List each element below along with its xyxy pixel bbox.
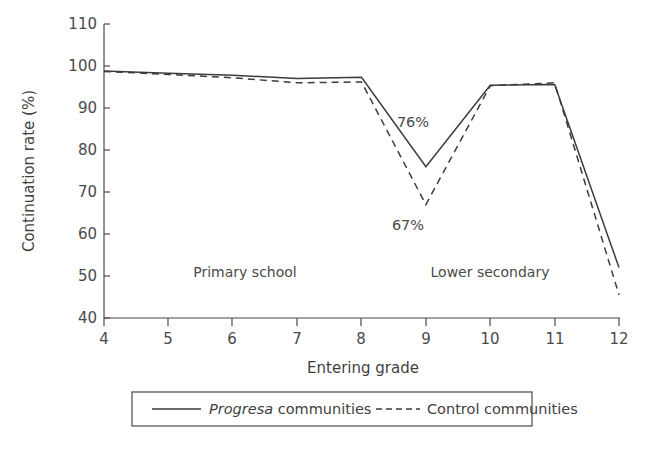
series-line-control (104, 71, 619, 294)
x-tick-label: 12 (609, 330, 628, 348)
x-tick-label: 4 (99, 330, 109, 348)
x-tick-label: 5 (163, 330, 173, 348)
legend-label-progresa-italic: Progresa (209, 401, 273, 417)
y-tick-label: 110 (68, 15, 97, 33)
y-axis-title: Continuation rate (%) (20, 90, 38, 252)
series-line-progresa (104, 71, 619, 268)
y-tick-label: 50 (78, 267, 97, 285)
y-tick-label: 70 (78, 183, 97, 201)
chart-legend: Progresa communities Control communities (132, 392, 578, 426)
x-axis-ticks (104, 318, 619, 326)
annotation-control-grade9: 67% (392, 217, 424, 233)
y-axis-tick-labels: 110 100 90 80 70 60 50 40 (68, 15, 97, 327)
y-tick-label: 90 (78, 99, 97, 117)
x-tick-label: 10 (480, 330, 499, 348)
x-tick-label: 11 (545, 330, 564, 348)
x-axis-title: Entering grade (307, 359, 419, 377)
region-label-lower-secondary: Lower secondary (431, 264, 550, 280)
annotation-progresa-grade9: 76% (397, 114, 429, 130)
x-tick-label: 7 (292, 330, 302, 348)
y-tick-label: 100 (68, 57, 97, 75)
legend-label-progresa-rest: communities (273, 401, 371, 417)
legend-label-progresa: Progresa communities (209, 401, 371, 417)
x-tick-label: 9 (421, 330, 431, 348)
y-axis-ticks (104, 24, 110, 318)
y-tick-label: 40 (78, 309, 97, 327)
y-tick-label: 60 (78, 225, 97, 243)
y-tick-label: 80 (78, 141, 97, 159)
x-tick-label: 8 (356, 330, 366, 348)
x-axis-tick-labels: 4 5 6 7 8 9 10 11 12 (99, 330, 628, 348)
continuation-rate-line-chart: 110 100 90 80 70 60 50 40 4 5 6 7 (0, 0, 659, 449)
region-label-primary-school: Primary school (193, 264, 296, 280)
chart-figure: 110 100 90 80 70 60 50 40 4 5 6 7 (0, 0, 659, 449)
x-tick-label: 6 (227, 330, 237, 348)
legend-label-control: Control communities (427, 401, 578, 417)
